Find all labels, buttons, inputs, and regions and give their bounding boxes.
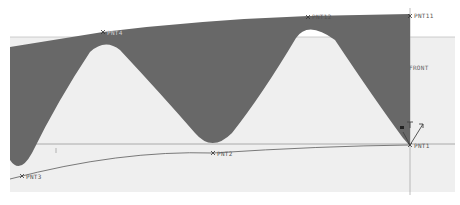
datum-point-label-pnt11[interactable]: PNT11 bbox=[414, 13, 434, 19]
datum-plane-label-front[interactable]: FRONT bbox=[409, 65, 429, 71]
datum-point-label-pnt12[interactable]: PNT12 bbox=[312, 14, 332, 20]
datum-point-label-pnt1[interactable]: PNT1 bbox=[414, 143, 430, 149]
datum-point-label-pnt2[interactable]: PNT2 bbox=[217, 151, 233, 157]
datum-point-label-pnt3[interactable]: PNT3 bbox=[26, 174, 42, 180]
model-viewport[interactable]: PNT4 PNT12 PNT11 PNT2 PNT3 PNT1 FRONT bbox=[0, 0, 460, 205]
datum-point-label-pnt4[interactable]: PNT4 bbox=[107, 30, 123, 36]
